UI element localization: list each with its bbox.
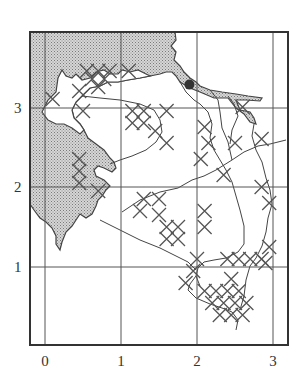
cross-marker (152, 208, 166, 222)
cross-marker (232, 252, 246, 266)
cross-marker (152, 192, 166, 206)
cross-marker (209, 284, 223, 298)
cross-marker (186, 264, 200, 278)
cross-marker (137, 192, 151, 206)
cross-marker (255, 132, 269, 146)
cross-marker (213, 308, 227, 322)
cross-marker (76, 104, 90, 118)
cross-marker (236, 308, 250, 322)
cross-marker (198, 284, 212, 298)
cross-marker (160, 232, 174, 246)
x-tick-label: 1 (117, 354, 125, 369)
x-tick-label: 0 (41, 354, 49, 369)
y-tick-label: 3 (14, 101, 22, 116)
cross-marker (201, 136, 215, 150)
cross-marker (133, 204, 147, 218)
cross-marker (160, 136, 174, 150)
reference-point-marker (184, 80, 194, 90)
map-figure (0, 0, 305, 379)
cross-marker (232, 284, 246, 298)
cross-marker (217, 296, 231, 310)
y-tick-label: 2 (14, 180, 22, 195)
river (100, 220, 196, 270)
cross-marker (228, 296, 242, 310)
x-tick-label: 3 (269, 354, 277, 369)
cross-marker (258, 256, 272, 270)
cross-marker (194, 152, 208, 166)
cross-marker (125, 116, 139, 130)
cross-marker (160, 104, 174, 118)
cross-marker (198, 120, 212, 134)
y-tick-label: 1 (14, 260, 22, 275)
cross-marker (137, 116, 151, 130)
cross-marker (171, 232, 185, 246)
cross-marker (220, 284, 234, 298)
cross-marker (224, 308, 238, 322)
cross-marker (198, 220, 212, 234)
cross-marker (224, 272, 238, 286)
x-tick-label: 2 (193, 354, 201, 369)
cross-marker (198, 204, 212, 218)
cross-marker (262, 196, 276, 210)
cross-marker (262, 240, 276, 254)
